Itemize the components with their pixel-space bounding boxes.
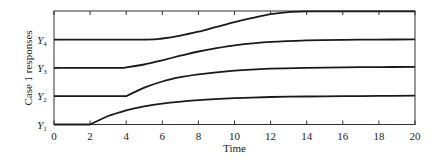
- y-tick-label: Y4: [37, 34, 47, 48]
- x-axis-title: Time: [223, 142, 246, 154]
- x-tick-label: 16: [337, 130, 349, 142]
- x-tick-label: 8: [196, 130, 202, 142]
- x-tick-label: 20: [410, 130, 422, 142]
- series-line-y2: [54, 67, 415, 96]
- y-axis-title: Case 1 responses: [22, 30, 34, 105]
- x-axis-ticks: 02468101214161820: [51, 11, 421, 142]
- x-tick-label: 6: [160, 130, 166, 142]
- y-tick-label: Y1: [37, 119, 47, 133]
- x-tick-label: 18: [373, 130, 385, 142]
- x-tick-label: 12: [265, 130, 276, 142]
- response-chart: 02468101214161820 Y1Y2Y3Y4 Time Case 1 r…: [0, 0, 440, 159]
- x-tick-label: 10: [229, 130, 241, 142]
- x-tick-label: 4: [123, 130, 129, 142]
- series-line-y3: [54, 39, 415, 68]
- y-tick-label: Y3: [37, 62, 47, 76]
- y-axis-ticks: Y1Y2Y3Y4: [37, 34, 58, 133]
- x-tick-label: 0: [51, 130, 57, 142]
- series-line-y4: [54, 11, 415, 39]
- y-tick-label: Y2: [37, 90, 47, 104]
- series-lines: [54, 11, 415, 124]
- x-tick-label: 2: [87, 130, 93, 142]
- series-line-y1: [54, 96, 415, 125]
- x-tick-label: 14: [301, 130, 313, 142]
